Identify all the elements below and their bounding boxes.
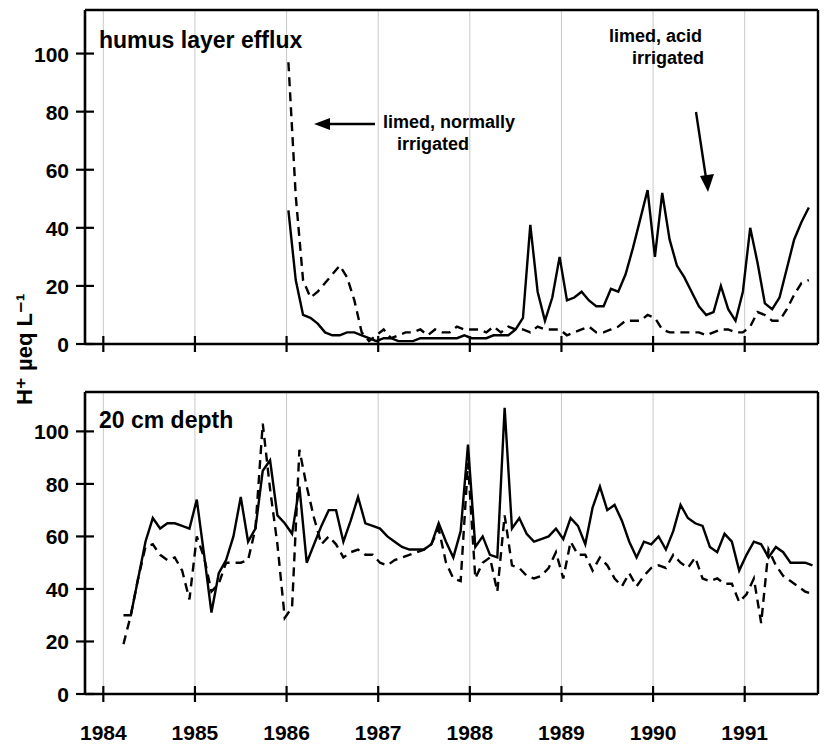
x-tick-label-1986: 1986 <box>263 721 310 744</box>
x-tick-label-1988: 1988 <box>446 721 493 744</box>
panel-20-cm-depth: 020406080100 198419851986198719881989199… <box>34 392 818 744</box>
annotation-limed-acid-irrigated: limed, acid irrigated <box>609 26 714 192</box>
panel-title-humus: humus layer efflux <box>99 27 302 53</box>
annotation-2-line-2: irrigated <box>632 48 704 68</box>
panel-title-20cm-depth: 20 cm depth <box>99 407 233 433</box>
y-tick-label-40: 40 <box>46 578 69 601</box>
y-tick-label-100: 100 <box>34 43 69 66</box>
x-tick-label-1991: 1991 <box>721 721 768 744</box>
series-limed-normally-irrigated-top <box>288 62 808 341</box>
series-limed-acid-irrigated-top <box>288 190 808 341</box>
y-tick-label-20: 20 <box>46 630 69 653</box>
y-tick-label-80: 80 <box>46 101 69 124</box>
y-tick-labels-bottom: 020406080100 <box>34 420 69 706</box>
y-tick-label-80: 80 <box>46 473 69 496</box>
x-tick-label-1985: 1985 <box>172 721 219 744</box>
y-tick-label-0: 0 <box>57 683 69 706</box>
y-tick-label-100: 100 <box>34 420 69 443</box>
panel-humus-layer-efflux: 020406080100 humus layer efflux limed, n… <box>34 10 818 356</box>
y-tick-label-60: 60 <box>46 159 69 182</box>
x-tick-label-1987: 1987 <box>355 721 402 744</box>
x-tick-label-1990: 1990 <box>630 721 677 744</box>
annotation-limed-normally-irrigated: limed, normally irrigated <box>314 112 515 154</box>
x-tick-label-1989: 1989 <box>538 721 585 744</box>
chart-figure: H⁺ µeq L⁻¹ 020406080100 humus layer effl… <box>0 0 824 753</box>
annotation-1-line-2: irrigated <box>397 134 469 154</box>
x-tick-labels: 19841985198619871988198919901991 <box>80 721 768 744</box>
y-tick-label-40: 40 <box>46 217 69 240</box>
y-tick-labels-top: 020406080100 <box>34 43 69 356</box>
series-limed-acid-irrigated-bottom <box>123 408 812 615</box>
x-tick-label-1984: 1984 <box>80 721 127 744</box>
y-axis-title-text: H⁺ µeq L⁻¹ <box>12 294 37 405</box>
y-tick-label-0: 0 <box>57 333 69 356</box>
annotation-2-leader-line <box>696 112 706 178</box>
y-tick-label-20: 20 <box>46 275 69 298</box>
annotation-2-arrowhead <box>700 174 714 192</box>
y-tick-label-60: 60 <box>46 525 69 548</box>
annotation-2-line-1: limed, acid <box>609 26 702 46</box>
annotation-1-arrowhead <box>314 118 330 130</box>
y-axis-title: H⁺ µeq L⁻¹ <box>12 294 37 405</box>
annotation-1-line-1: limed, normally <box>383 112 515 132</box>
two-panel-line-chart: H⁺ µeq L⁻¹ 020406080100 humus layer effl… <box>0 0 824 753</box>
